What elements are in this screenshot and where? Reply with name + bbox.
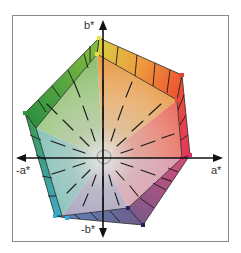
- lab-gamut-diagram: [0, 0, 241, 253]
- axis-label-b-minus: -b*: [81, 224, 95, 235]
- neutral-center: [97, 150, 111, 164]
- axis-label-a-plus: a*: [211, 165, 221, 176]
- axis-label-a-minus: -a*: [16, 165, 30, 176]
- axis-label-b-plus: b*: [84, 20, 94, 31]
